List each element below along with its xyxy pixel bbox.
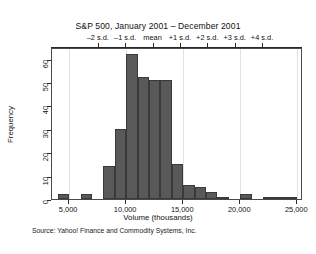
sd-axis-tick — [235, 43, 236, 47]
histogram-bars — [52, 49, 301, 199]
plot-area — [51, 48, 302, 200]
x-axis-tick — [182, 200, 183, 204]
sd-axis-tick-label: mean — [143, 33, 162, 42]
x-axis-tick — [239, 200, 240, 204]
histogram-bar — [274, 197, 285, 199]
source-note: Source: Yahoo! Finance and Commodity Sys… — [32, 227, 196, 234]
histogram-bar — [172, 164, 183, 199]
y-axis-tick-label: 30 — [41, 130, 50, 138]
sd-axis-tick-label: –1 s.d. — [114, 33, 136, 42]
x-axis-title: Volume (thousands) — [0, 213, 316, 222]
sd-axis-tick-label: +4 s.d. — [251, 33, 273, 42]
histogram-bar — [286, 197, 297, 199]
sd-axis-tick-label: –2 s.d. — [87, 33, 109, 42]
sd-axis-tick-label: +1 s.d. — [169, 33, 191, 42]
sd-axis-tick-label: +3 s.d. — [223, 33, 245, 42]
histogram-bar — [81, 194, 92, 199]
sd-axis-tick — [180, 43, 181, 47]
y-axis-tick-label: 0 — [41, 200, 50, 204]
histogram-bar — [195, 187, 206, 199]
y-axis: 0102030405060 — [0, 48, 51, 200]
sd-axis-tick — [153, 43, 154, 47]
histogram-bar — [160, 80, 171, 199]
x-axis-tick — [125, 200, 126, 204]
x-axis-tick — [68, 200, 69, 204]
histogram-bar — [138, 77, 149, 199]
y-axis-tick-label: 20 — [41, 153, 50, 161]
histogram-bar — [58, 194, 69, 199]
histogram-bar — [183, 185, 194, 199]
chart-title: S&P 500, January 2001 – December 2001 — [0, 21, 316, 31]
standard-deviation-axis: –2 s.d.–1 s.d.mean+1 s.d.+2 s.d.+3 s.d.+… — [51, 33, 302, 49]
y-axis-tick-label: 60 — [41, 60, 50, 68]
histogram-bar — [126, 54, 137, 199]
histogram-bar — [103, 166, 114, 199]
histogram-bar — [115, 129, 126, 199]
y-axis-tick-label: 50 — [41, 83, 50, 91]
y-axis-tick-label: 10 — [41, 177, 50, 185]
histogram-bar — [263, 197, 274, 199]
histogram-bar — [206, 192, 217, 199]
sd-axis-tick — [262, 43, 263, 47]
chart-figure: S&P 500, January 2001 – December 2001 –2… — [0, 0, 316, 254]
histogram-bar — [149, 80, 160, 199]
histogram-bar — [240, 194, 251, 199]
sd-axis-tick-label: +2 s.d. — [196, 33, 218, 42]
x-axis-tick — [296, 200, 297, 204]
y-axis-tick-label: 40 — [41, 106, 50, 114]
sd-axis-tick — [125, 43, 126, 47]
sd-axis-tick — [98, 43, 99, 47]
histogram-bar — [217, 197, 228, 199]
sd-axis-tick — [207, 43, 208, 47]
